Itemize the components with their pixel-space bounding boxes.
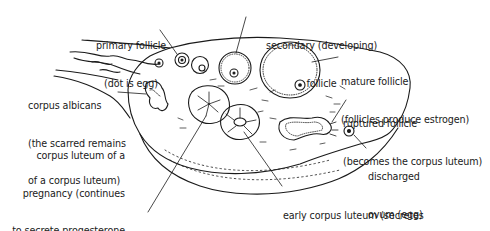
label-corpus-luteum-pregnancy: corpus luteum of a pregnancy (continues … [12,125,125,231]
label-line: mature follicle [341,76,469,89]
label-line: discharged [368,171,423,184]
label-line: primary follicle [96,40,166,53]
label-line: early corpus luteum (secretes [283,210,462,223]
label-line: to secrete progesterone [12,225,125,231]
label-line: ruptured follicle [343,118,482,131]
primary-follicle-shape [175,53,189,67]
early-corpus-luteum-shape [221,105,260,140]
label-line: pregnancy (continues [12,188,125,201]
label-line: corpus luteum of a [12,150,125,163]
label-early-corpus-luteum: early corpus luteum (secretes progestero… [283,185,462,231]
secondary-follicle-shape [219,52,251,84]
label-line: corpus albicans [28,100,126,113]
ruptured-follicle-shape [279,117,338,140]
corpus-luteum-pregnancy-shape [189,86,230,124]
